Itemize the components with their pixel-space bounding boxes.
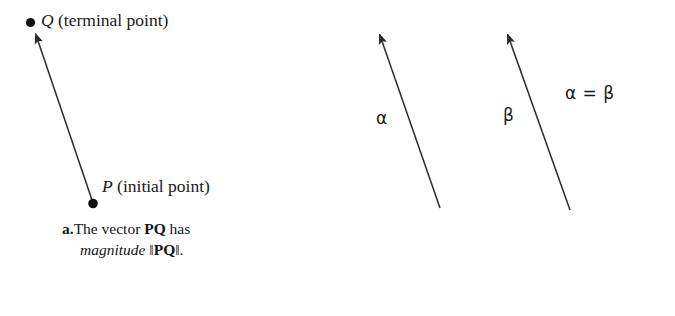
beta-vector-arrow xyxy=(508,34,571,210)
caption-a-line2-end: ‖. xyxy=(175,241,183,258)
caption-a-line2-italic: magnitude xyxy=(80,241,145,258)
beta-label: β xyxy=(503,107,514,124)
panel-a-drawing xyxy=(0,0,340,316)
initial-point-label: P (initial point) xyxy=(102,178,210,196)
alpha-vector-arrow xyxy=(380,34,441,208)
initial-point-dot xyxy=(88,199,98,209)
caption-a-tag: a. xyxy=(62,220,74,237)
caption-a-line1-bold: PQ xyxy=(144,220,166,237)
caption-a: a.The vector PQ has magnitude ‖PQ‖. xyxy=(62,219,312,261)
panel-a-vector-pq: Q (terminal point) P (initial point) a.T… xyxy=(0,0,340,316)
panel-b-drawing xyxy=(340,0,675,316)
figure-container: Q (terminal point) P (initial point) a.T… xyxy=(0,0,675,316)
terminal-point-variable: Q xyxy=(41,10,54,30)
terminal-point-dot xyxy=(26,18,35,27)
caption-a-line2-bold: PQ xyxy=(154,241,176,258)
caption-a-line1-pre: The vector xyxy=(74,220,145,237)
panel-b-equal-vectors: α β α = β b.Two vectors are equal if the… xyxy=(340,0,675,316)
initial-point-text: (initial point) xyxy=(113,176,210,196)
vector-pq-arrow xyxy=(36,34,94,204)
initial-point-variable: P xyxy=(102,176,113,196)
caption-a-line1-post: has xyxy=(166,220,191,237)
alpha-equals-beta-label: α = β xyxy=(565,85,615,102)
alpha-label: α xyxy=(376,110,387,127)
terminal-point-text: (terminal point) xyxy=(54,10,169,30)
terminal-point-label: Q (terminal point) xyxy=(41,12,168,30)
